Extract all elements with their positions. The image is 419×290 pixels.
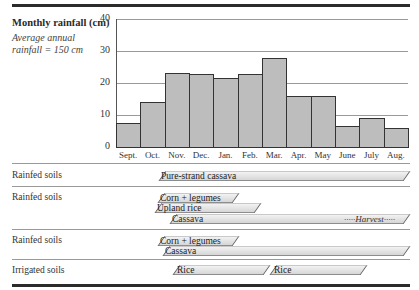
y-tick-label: 30 xyxy=(94,44,110,55)
band-label: Cassava xyxy=(172,214,203,224)
gridline xyxy=(116,19,408,20)
x-tick-label: Aug. xyxy=(381,150,411,160)
bar-may xyxy=(311,96,336,148)
harvest-label: Harvest xyxy=(355,214,384,224)
row-label-rainfed-2: Rainfed soils xyxy=(12,192,62,202)
bar-sept xyxy=(116,123,141,148)
row-label-rainfed-1: Rainfed soils xyxy=(12,170,62,180)
band-label: Corn + legumes xyxy=(160,193,221,203)
band-label: Cassava xyxy=(165,246,196,256)
gridline xyxy=(116,51,408,52)
harvest-dots-right: ····· xyxy=(384,214,395,224)
y-tick-label: 10 xyxy=(94,108,110,119)
bar-oct xyxy=(140,102,165,148)
bar-apr xyxy=(286,96,311,148)
row-divider xyxy=(12,186,410,187)
row-label-rainfed-3: Rainfed soils xyxy=(12,235,62,245)
band-label: Corn + legumes xyxy=(160,236,221,246)
row-divider xyxy=(12,229,410,230)
harvest-annotation: ·····Harvest····· xyxy=(344,214,395,224)
row-divider xyxy=(12,259,410,260)
y-tick-label: 40 xyxy=(94,12,110,23)
bottom-rule xyxy=(12,284,410,287)
row-divider xyxy=(12,163,410,164)
band-cassava xyxy=(162,246,410,256)
band-label: Rice xyxy=(177,265,194,275)
band-label: Pure-strand cassava xyxy=(161,171,236,181)
bar-dec xyxy=(189,74,214,148)
band-label: Rice xyxy=(274,265,291,275)
bar-jan xyxy=(213,78,238,148)
rainfall-bar-chart: 010203040Sept.Oct.Nov.Dec.Jan.Feb.Mar.Ap… xyxy=(0,0,419,165)
row-label-irrigated: Irrigated soils xyxy=(12,265,65,275)
band-label: Upland rice xyxy=(157,203,202,213)
bar-aug xyxy=(384,128,409,148)
bar-june xyxy=(335,126,360,148)
bar-feb xyxy=(238,74,263,148)
harvest-dots-left: ····· xyxy=(344,214,355,224)
y-tick-label: 0 xyxy=(94,140,110,151)
bar-july xyxy=(359,118,384,148)
y-tick-label: 20 xyxy=(94,76,110,87)
bar-nov xyxy=(165,73,190,148)
bar-mar xyxy=(262,58,287,148)
